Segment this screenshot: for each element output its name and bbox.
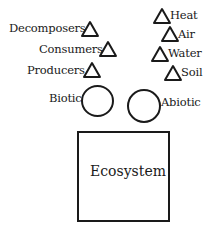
decomposers-triangle-icon [80,20,100,38]
water-label: Water [168,47,202,59]
consumers-triangle-icon [98,40,118,58]
soil-label: Soil [181,66,202,78]
soil-triangle-icon [163,64,183,82]
water-triangle-icon [150,45,170,63]
producers-triangle-icon [82,61,102,79]
heat-label: Heat [170,9,198,21]
biotic-circle [81,85,114,117]
abiotic-label: Abiotic [161,96,201,108]
abiotic-circle [127,89,161,123]
ecosystem-label: Ecosystem [90,163,166,179]
heat-triangle-icon [152,7,172,25]
decomposers-label: Decomposers [9,22,86,34]
consumers-label: Consumers [39,43,103,55]
biotic-label: Biotic [49,92,82,104]
air-triangle-icon [160,25,180,43]
producers-label: Producers [27,64,85,76]
air-label: Air [178,28,195,40]
